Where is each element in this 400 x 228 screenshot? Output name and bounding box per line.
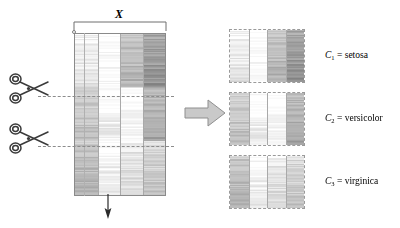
- cluster-subscript-c2: 2: [331, 117, 334, 124]
- scissors-icon-2[interactable]: [8, 122, 50, 156]
- cluster-species-c1: setosa: [345, 50, 368, 60]
- cluster2-column-3: [267, 93, 286, 145]
- cut-line-1: [38, 96, 174, 97]
- cluster2-column-2: [249, 93, 268, 145]
- block-arrow: [184, 98, 226, 128]
- cluster-species-c3: virginica: [345, 176, 379, 186]
- matrix-column-1: [75, 34, 98, 195]
- cluster-subscript-c3: 3: [331, 180, 334, 187]
- matrix-guide-line: [84, 33, 85, 196]
- scissors-icon-1[interactable]: [8, 72, 50, 106]
- cluster-subscript-c1: 1: [331, 54, 334, 61]
- matrix-column-2: [98, 34, 121, 195]
- cluster-caption-c2: C2 = versicolor: [325, 114, 383, 124]
- matrix-column-3: [120, 34, 143, 195]
- cluster-block-c3: [229, 155, 305, 209]
- cluster1-column-1: [230, 30, 249, 82]
- cluster-equals-c1: =: [335, 50, 345, 60]
- matrix-label-x: X: [115, 8, 123, 20]
- cluster-equals-c3: =: [335, 176, 345, 186]
- cluster-species-c2: versicolor: [345, 113, 383, 123]
- cluster3-column-4: [286, 156, 305, 208]
- cluster1-column-3: [267, 30, 286, 82]
- cluster-caption-c1: C1 = setosa: [325, 51, 368, 61]
- cluster3-column-2: [249, 156, 268, 208]
- cluster1-column-4: [286, 30, 305, 82]
- origin-circle-marker: [72, 30, 76, 34]
- down-arrow: [101, 194, 115, 220]
- matrix-column-4: [143, 34, 166, 195]
- cluster-block-c2: [229, 92, 305, 146]
- cluster2-column-4: [286, 93, 305, 145]
- cluster-caption-c3: C3 = virginica: [325, 177, 378, 187]
- source-data-matrix: [74, 33, 166, 196]
- cluster2-column-1: [230, 93, 249, 145]
- cluster3-column-3: [267, 156, 286, 208]
- matrix-bracket: [73, 21, 167, 32]
- cluster-block-c1: [229, 29, 305, 83]
- cut-line-2: [38, 146, 174, 147]
- cluster-equals-c2: =: [335, 113, 345, 123]
- cluster3-column-1: [230, 156, 249, 208]
- figure-canvas: X: [0, 0, 400, 228]
- cluster1-column-2: [249, 30, 268, 82]
